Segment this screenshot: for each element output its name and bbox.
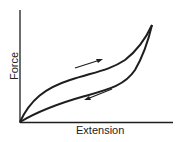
loading-arrow-icon xyxy=(75,59,103,68)
y-axis-label: Force xyxy=(8,46,20,86)
unloading-curve xyxy=(20,25,152,122)
x-axis-label: Extension xyxy=(76,124,124,136)
hysteresis-diagram xyxy=(0,0,177,142)
